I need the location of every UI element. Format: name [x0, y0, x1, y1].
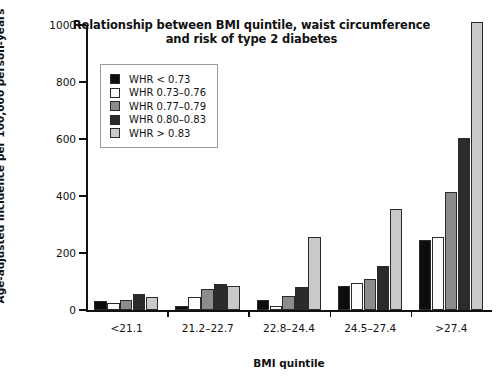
y-axis-title: Age-adjusted incidence per 100,000 perso… — [0, 6, 6, 306]
y-tick-label: 800 — [56, 75, 76, 90]
bar — [107, 303, 119, 310]
bar — [227, 286, 239, 310]
x-tick-label: 24.5–27.4 — [330, 322, 411, 334]
bar-group — [248, 25, 329, 310]
bar — [432, 237, 444, 310]
legend-label: WHR 0.77–0.79 — [129, 101, 206, 112]
legend-item: WHR > 0.83 — [110, 127, 206, 140]
bar — [364, 279, 376, 310]
bar — [120, 300, 132, 310]
y-tick-mark — [79, 252, 86, 254]
x-tick-label: 22.8–24.4 — [248, 322, 329, 334]
bar — [201, 289, 213, 310]
bar — [471, 22, 483, 310]
bar — [257, 300, 269, 310]
x-tick-mark — [167, 310, 169, 317]
legend-item: WHR 0.77–0.79 — [110, 100, 206, 113]
y-tick-label: 400 — [56, 189, 76, 204]
bar — [133, 294, 145, 310]
legend-swatch — [110, 74, 120, 84]
y-tick-label: 1000 — [49, 18, 76, 33]
bar — [419, 240, 431, 310]
x-tick-mark — [248, 310, 250, 317]
y-tick-label: 600 — [56, 132, 76, 147]
legend-swatch — [110, 88, 120, 98]
bar — [94, 301, 106, 310]
x-tick-label: 21.2–22.7 — [167, 322, 248, 334]
x-axis-line — [86, 310, 492, 312]
y-tick-mark — [79, 309, 86, 311]
x-tick-label: >27.4 — [411, 322, 492, 334]
bar — [188, 297, 200, 310]
legend-swatch — [110, 128, 120, 138]
legend-item: WHR < 0.73 — [110, 73, 206, 86]
y-tick-mark — [79, 138, 86, 140]
bar-group — [411, 25, 492, 310]
bar — [282, 296, 294, 310]
legend-item: WHR 0.80–0.83 — [110, 113, 206, 126]
bar — [146, 297, 158, 310]
bar — [390, 209, 402, 310]
y-tick-label: 0 — [69, 303, 76, 318]
legend-swatch — [110, 101, 120, 111]
bar — [214, 284, 226, 310]
y-tick-mark — [79, 24, 86, 26]
legend-swatch — [110, 115, 120, 125]
bar — [445, 192, 457, 310]
legend-label: WHR < 0.73 — [129, 74, 190, 85]
bar — [338, 286, 350, 310]
x-tick-mark — [330, 310, 332, 317]
bar — [175, 306, 187, 310]
legend-label: WHR 0.80–0.83 — [129, 114, 206, 125]
bar — [351, 283, 363, 310]
legend-label: WHR 0.73–0.76 — [129, 87, 206, 98]
bar-group — [330, 25, 411, 310]
legend-label: WHR > 0.83 — [129, 128, 190, 139]
bar — [295, 287, 307, 310]
y-tick-mark — [79, 81, 86, 83]
bar — [270, 306, 282, 310]
x-tick-label: <21.1 — [86, 322, 167, 334]
x-tick-mark — [411, 310, 413, 317]
bar — [377, 266, 389, 310]
y-tick-label: 200 — [56, 246, 76, 261]
bar — [458, 138, 470, 310]
bar — [308, 237, 320, 310]
y-tick-mark — [79, 195, 86, 197]
legend-item: WHR 0.73–0.76 — [110, 86, 206, 99]
